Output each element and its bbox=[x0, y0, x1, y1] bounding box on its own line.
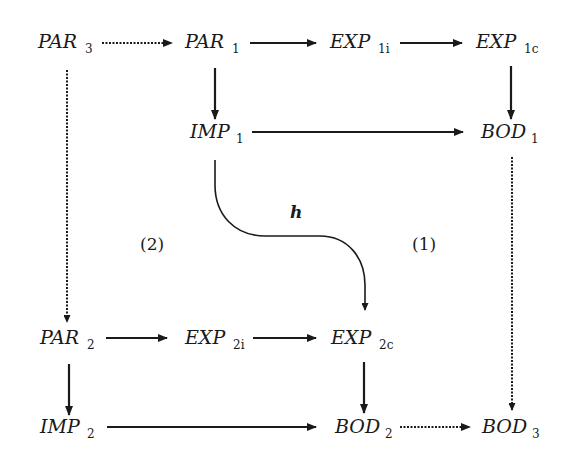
node-par2-base: PAR bbox=[39, 326, 79, 348]
node-imp1: IMP 1 bbox=[189, 120, 244, 146]
node-imp2: IMP 2 bbox=[39, 415, 95, 441]
label-region-2: (2) bbox=[140, 234, 164, 254]
node-exp2c-base: EXP bbox=[330, 326, 372, 348]
label-h: h bbox=[290, 202, 302, 222]
arrow-h-imp1-to-exp2c bbox=[215, 160, 365, 310]
node-exp1c-base: EXP bbox=[475, 30, 517, 52]
node-exp1c-sub: 1c bbox=[524, 42, 539, 56]
node-imp2-base: IMP bbox=[39, 415, 81, 437]
node-bod2-sub: 2 bbox=[385, 427, 393, 441]
node-par2: PAR 2 bbox=[39, 326, 95, 352]
node-exp1i-sub: 1i bbox=[378, 42, 390, 56]
node-bod3-sub: 3 bbox=[532, 427, 540, 441]
node-par1-base: PAR bbox=[184, 30, 224, 52]
node-exp2c-sub: 2c bbox=[379, 338, 394, 352]
node-exp1c: EXP 1c bbox=[475, 30, 539, 56]
node-exp1i-base: EXP bbox=[329, 30, 371, 52]
node-bod2: BOD 2 bbox=[334, 415, 393, 441]
node-imp1-base: IMP bbox=[189, 120, 231, 142]
node-exp2i: EXP 2i bbox=[184, 326, 245, 352]
node-exp2i-base: EXP bbox=[184, 326, 226, 348]
node-bod2-base: BOD bbox=[334, 415, 380, 437]
node-par3: PAR 3 bbox=[37, 30, 93, 56]
node-bod1-sub: 1 bbox=[531, 132, 539, 146]
node-par3-sub: 3 bbox=[85, 42, 93, 56]
node-exp2c: EXP 2c bbox=[330, 326, 394, 352]
node-exp2i-sub: 2i bbox=[233, 338, 245, 352]
node-exp1i: EXP 1i bbox=[329, 30, 390, 56]
node-par1: PAR 1 bbox=[184, 30, 240, 56]
node-bod1-base: BOD bbox=[480, 120, 526, 142]
node-par3-base: PAR bbox=[37, 30, 77, 52]
node-imp1-sub: 1 bbox=[236, 132, 244, 146]
node-par1-sub: 1 bbox=[232, 42, 240, 56]
node-bod3: BOD 3 bbox=[481, 415, 540, 441]
node-bod1: BOD 1 bbox=[480, 120, 539, 146]
label-region-1: (1) bbox=[412, 234, 436, 254]
node-bod3-base: BOD bbox=[481, 415, 527, 437]
commutative-diagram: PAR 3 PAR 1 EXP 1i EXP 1c IMP 1 BOD 1 PA… bbox=[0, 0, 571, 466]
node-par2-sub: 2 bbox=[87, 338, 95, 352]
node-imp2-sub: 2 bbox=[87, 427, 95, 441]
